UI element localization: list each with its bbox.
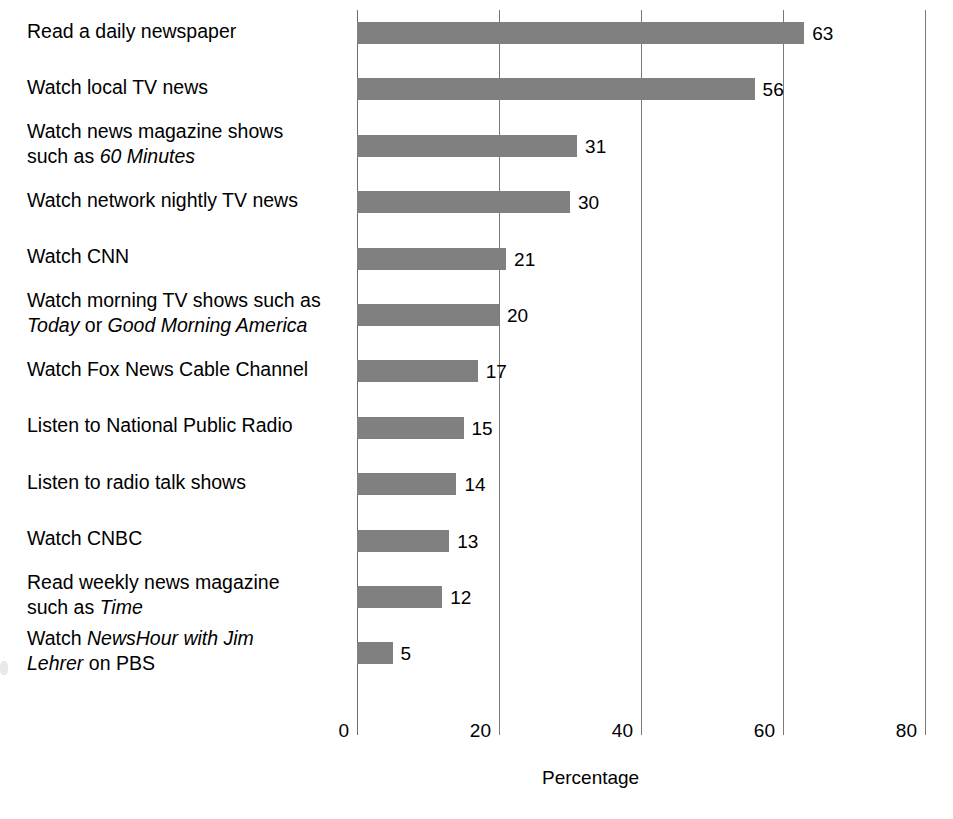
- bar[interactable]: [357, 473, 456, 495]
- bar-value-label: 56: [763, 79, 784, 101]
- gridline-60: [783, 10, 784, 735]
- x-tick-label-60: 60: [737, 721, 775, 740]
- category-label: Watch local TV news: [27, 75, 208, 100]
- gridline-80: [925, 10, 926, 735]
- gridline-40: [641, 10, 642, 735]
- bar[interactable]: [357, 360, 478, 382]
- bar-value-label: 12: [450, 587, 471, 609]
- bar[interactable]: [357, 304, 499, 326]
- category-label: Watch Fox News Cable Channel: [27, 357, 308, 382]
- category-label: Watch CNN: [27, 244, 129, 269]
- bar-value-label: 63: [812, 23, 833, 45]
- bar[interactable]: [357, 135, 577, 157]
- category-label: Watch network nightly TV news: [27, 188, 298, 213]
- bar-value-label: 31: [585, 136, 606, 158]
- x-tick-label-20: 20: [453, 721, 491, 740]
- bar-value-label: 30: [578, 192, 599, 214]
- bar-value-label: 17: [486, 361, 507, 383]
- bar-value-label: 21: [514, 249, 535, 271]
- category-label: Read weekly news magazinesuch as Time: [27, 570, 280, 620]
- x-tick-label-40: 40: [595, 721, 633, 740]
- category-label: Watch morning TV shows such asToday or G…: [27, 288, 321, 338]
- category-label: Watch CNBC: [27, 526, 142, 551]
- bar-chart-plot-area: 02040608063Read a daily newspaper56Watch…: [0, 0, 953, 819]
- bar[interactable]: [357, 78, 755, 100]
- bar[interactable]: [357, 248, 506, 270]
- category-label: Listen to radio talk shows: [27, 470, 246, 495]
- bar[interactable]: [357, 417, 464, 439]
- bar[interactable]: [357, 191, 570, 213]
- x-axis-title: Percentage: [542, 768, 639, 787]
- category-label: Read a daily newspaper: [27, 19, 236, 44]
- bar[interactable]: [357, 586, 442, 608]
- bar-value-label: 20: [507, 305, 528, 327]
- bar[interactable]: [357, 22, 804, 44]
- bar[interactable]: [357, 642, 393, 664]
- category-label: Listen to National Public Radio: [27, 413, 293, 438]
- chart-page: 02040608063Read a daily newspaper56Watch…: [0, 0, 953, 819]
- bar-value-label: 5: [401, 643, 412, 665]
- x-tick-label-0: 0: [311, 721, 349, 740]
- category-label: Watch news magazine showssuch as 60 Minu…: [27, 119, 283, 169]
- x-tick-label-80: 80: [879, 721, 917, 740]
- category-label: Watch NewsHour with JimLehrer on PBS: [27, 626, 254, 676]
- bar-value-label: 14: [464, 474, 485, 496]
- bar-value-label: 15: [472, 418, 493, 440]
- bar-value-label: 13: [457, 531, 478, 553]
- bar[interactable]: [357, 530, 449, 552]
